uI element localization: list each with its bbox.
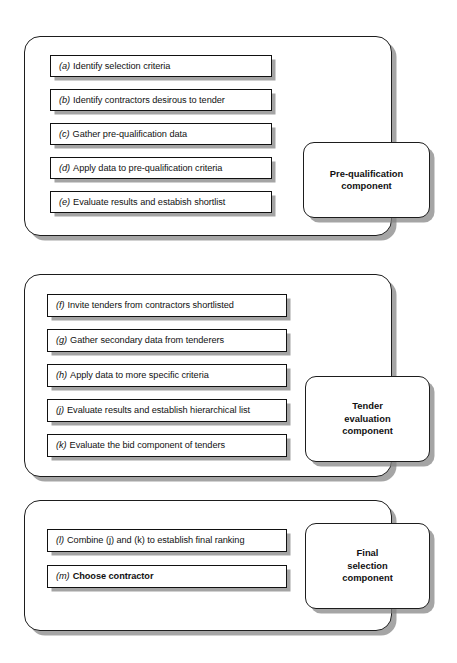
component-label-line-1: Tender (352, 400, 383, 411)
step-box-k: (k) Evaluate the bid component of tender… (47, 434, 287, 457)
step-tag-g: (g) (56, 335, 67, 346)
step-box-d: (d) Apply data to pre-qualification crit… (50, 157, 272, 179)
step-text-b: Identify contractors desirous to tender (73, 95, 225, 106)
step-box-a: (a) Identify selection criteria (50, 55, 272, 77)
step-tag-h: (h) (56, 370, 67, 381)
step-box-g: (g) Gather secondary data from tenderers (47, 329, 287, 352)
step-text-j: Evaluate results and establish hierarchi… (67, 405, 250, 416)
step-tag-a: (a) (59, 61, 70, 72)
component-label-pre-qualification: Pre-qualification component (330, 168, 403, 193)
process-diagram: (a) Identify selection criteria (b) Iden… (0, 0, 457, 663)
component-box-tender-evaluation: Tender evaluation component (305, 376, 430, 462)
step-text-k: Evaluate the bid component of tenders (70, 440, 225, 451)
step-tag-m: (m) (56, 571, 70, 582)
component-label-final-selection: Final selection component (342, 547, 393, 584)
component-label-line-2: component (341, 180, 392, 191)
step-box-e: (e) Evaluate results and estabish shortl… (50, 191, 272, 213)
step-box-h: (h) Apply data to more specific criteria (47, 364, 287, 387)
component-label-tender-evaluation: Tender evaluation component (342, 400, 393, 437)
step-text-f: Invite tenders from contractors shortlis… (68, 300, 234, 311)
step-text-d: Apply data to pre-qualification criteria (73, 163, 222, 174)
component-label-line-3: component (342, 572, 393, 583)
step-tag-k: (k) (56, 440, 67, 451)
step-text-a: Identify selection criteria (73, 61, 170, 72)
step-tag-c: (c) (59, 129, 70, 140)
step-tag-d: (d) (59, 163, 70, 174)
component-box-pre-qualification: Pre-qualification component (303, 142, 430, 218)
component-box-final-selection: Final selection component (305, 523, 430, 609)
step-tag-f: (f) (56, 300, 65, 311)
component-label-line-1: Pre-qualification (330, 168, 403, 179)
component-label-line-2: evaluation (344, 413, 390, 424)
step-box-b: (b) Identify contractors desirous to ten… (50, 89, 272, 111)
step-text-m: Choose contractor (73, 571, 154, 582)
step-text-l: Combine (j) and (k) to establish final r… (67, 535, 244, 546)
step-text-g: Gather secondary data from tenderers (70, 335, 224, 346)
step-tag-j: (j) (56, 405, 64, 416)
step-box-c: (c) Gather pre-qualification data (50, 123, 272, 145)
component-label-line-2: selection (347, 560, 388, 571)
step-text-e: Evaluate results and estabish shortlist (73, 197, 225, 208)
step-text-c: Gather pre-qualification data (73, 129, 187, 140)
step-text-h: Apply data to more specific criteria (70, 370, 209, 381)
step-box-m: (m) Choose contractor (47, 565, 287, 588)
step-box-f: (f) Invite tenders from contractors shor… (47, 294, 287, 317)
component-label-line-1: Final (357, 547, 379, 558)
step-box-l: (l) Combine (j) and (k) to establish fin… (47, 529, 287, 552)
step-tag-e: (e) (59, 197, 70, 208)
step-tag-l: (l) (56, 535, 64, 546)
component-label-line-3: component (342, 425, 393, 436)
step-tag-b: (b) (59, 95, 70, 106)
step-box-j: (j) Evaluate results and establish hiera… (47, 399, 287, 422)
